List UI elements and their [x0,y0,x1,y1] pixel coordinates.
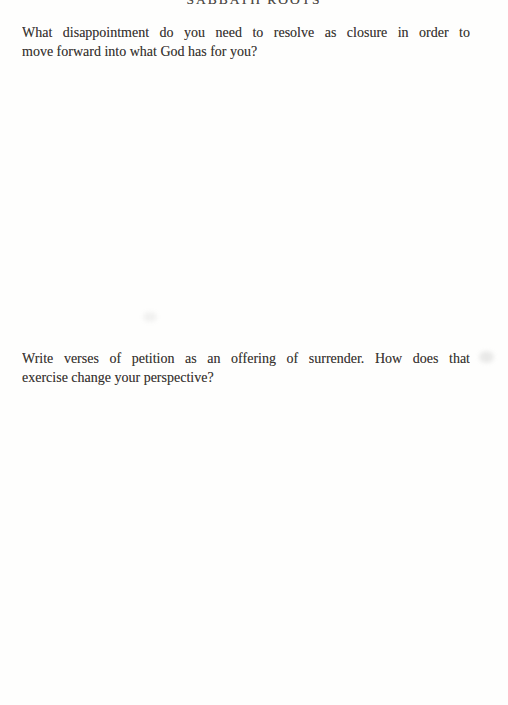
scan-smudge-artifact [479,351,494,363]
scanned-book-page: SABBATH ROOTS What disappointment do you… [0,0,508,705]
question-1-line-1: What disappointment do you need to resol… [22,23,470,42]
answer-space-1 [22,66,470,346]
running-header: SABBATH ROOTS [0,0,508,5]
scan-smudge-artifact [143,312,157,322]
question-2-line-1: Write verses of petition as an offering … [22,349,470,368]
question-2-line-2: exercise change your perspective? [22,368,470,387]
question-1-line-2: move forward into what God has for you? [22,42,470,61]
running-header-title: SABBATH ROOTS [186,0,321,5]
question-1: What disappointment do you need to resol… [22,23,470,61]
question-2: Write verses of petition as an offering … [22,349,470,387]
answer-space-2 [22,392,470,692]
